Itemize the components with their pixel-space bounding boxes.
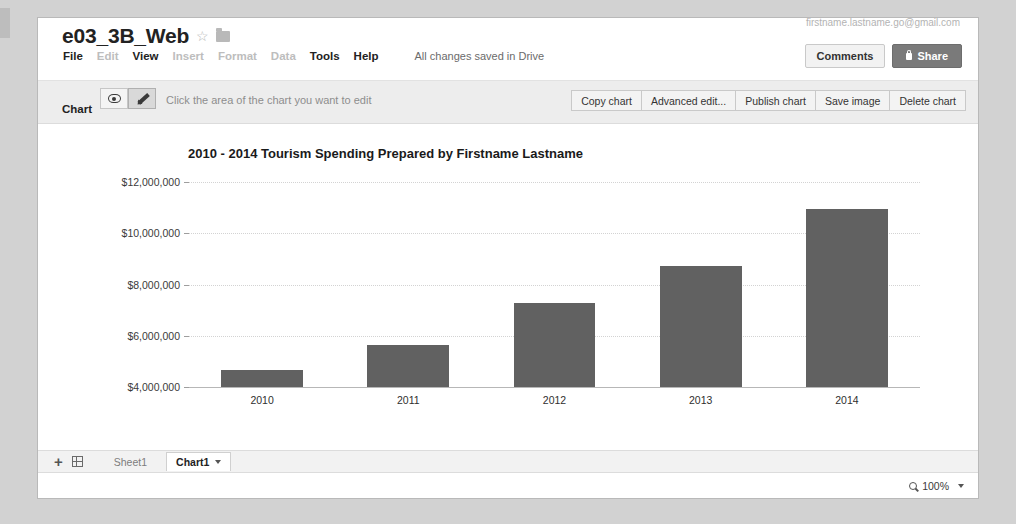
magnifier-icon [909, 482, 917, 490]
chevron-down-icon[interactable] [215, 460, 221, 464]
spreadsheet-window: firstname.lastname.go@gmail.com e03_3B_W… [38, 18, 978, 498]
sheet-tab-chart1[interactable]: Chart1 [166, 452, 231, 471]
chart-bar[interactable] [514, 303, 596, 387]
zoom-level-label: 100% [922, 480, 949, 492]
chart-editor-toolbar: Chart Click the area of the chart you wa… [38, 81, 978, 124]
x-axis-tick-label: 2011 [397, 394, 420, 406]
menu-bar: File Edit View Insert Format Data Tools … [63, 50, 544, 62]
document-title-row: e03_3B_Web ☆ [62, 24, 230, 48]
view-mode-button[interactable] [100, 88, 128, 109]
y-axis-tick [184, 336, 189, 337]
status-bar: 100% [38, 472, 978, 498]
y-axis-tick [184, 233, 189, 234]
menu-item-file[interactable]: File [63, 50, 83, 62]
star-icon[interactable]: ☆ [196, 29, 209, 43]
copy-chart-button[interactable]: Copy chart [571, 90, 642, 111]
menu-item-insert[interactable]: Insert [173, 50, 204, 62]
chart-mode-group [100, 88, 156, 109]
advanced-edit-button[interactable]: Advanced edit... [641, 90, 736, 111]
menu-item-tools[interactable]: Tools [310, 50, 340, 62]
menu-item-format[interactable]: Format [218, 50, 257, 62]
menu-item-edit[interactable]: Edit [97, 50, 119, 62]
add-sheet-icon[interactable]: + [54, 454, 63, 469]
y-axis-tick-label: $6,000,000 [127, 330, 180, 342]
x-axis-tick-label: 2012 [543, 394, 566, 406]
zoom-control[interactable]: 100% [909, 480, 964, 492]
x-axis-tick-label: 2013 [689, 394, 712, 406]
menu-item-view[interactable]: View [133, 50, 159, 62]
chevron-down-icon[interactable] [958, 484, 964, 488]
sheet-tab-sheet1[interactable]: Sheet1 [106, 454, 155, 470]
eye-icon [108, 94, 121, 103]
pencil-icon [136, 92, 149, 105]
y-axis-tick-label: $10,000,000 [122, 227, 180, 239]
sheet-tab-bar: + Sheet1 Chart1 [38, 450, 978, 472]
y-axis-tick [184, 387, 189, 388]
chart-title[interactable]: 2010 - 2014 Tourism Spending Prepared by… [188, 146, 583, 161]
share-button-label: Share [917, 50, 948, 62]
header-actions: Comments Share [805, 44, 962, 68]
y-axis-tick [184, 182, 189, 183]
chart-gridline [189, 182, 920, 183]
chart-bar[interactable] [367, 345, 449, 387]
chart-panel-label: Chart [62, 103, 92, 115]
y-axis-tick-label: $8,000,000 [127, 279, 180, 291]
app-header: firstname.lastname.go@gmail.com e03_3B_W… [38, 18, 978, 81]
edit-mode-button[interactable] [128, 88, 156, 109]
menu-item-data[interactable]: Data [271, 50, 296, 62]
menu-item-help[interactable]: Help [354, 50, 379, 62]
folder-icon[interactable] [216, 31, 230, 42]
chart-plot-area[interactable]: $4,000,000$6,000,000$8,000,000$10,000,00… [189, 182, 920, 388]
y-axis-tick [184, 285, 189, 286]
chart-canvas[interactable]: 2010 - 2014 Tourism Spending Prepared by… [38, 124, 978, 454]
save-status-text: All changes saved in Drive [415, 50, 545, 62]
share-button[interactable]: Share [892, 44, 962, 68]
account-email[interactable]: firstname.lastname.go@gmail.com [806, 17, 960, 28]
x-axis-tick-label: 2014 [835, 394, 858, 406]
comments-button[interactable]: Comments [805, 44, 886, 68]
chart-edit-hint: Click the area of the chart you want to … [166, 94, 371, 106]
page-title[interactable]: e03_3B_Web [62, 24, 189, 48]
delete-chart-button[interactable]: Delete chart [889, 90, 966, 111]
chart-bar[interactable] [806, 209, 888, 387]
chart-container: 2010 - 2014 Tourism Spending Prepared by… [48, 132, 968, 432]
sheet-tab-chart1-label: Chart1 [176, 456, 209, 468]
y-axis-tick-label: $4,000,000 [127, 381, 180, 393]
lock-icon [906, 53, 912, 60]
chart-action-buttons: Copy chart Advanced edit... Publish char… [572, 90, 966, 111]
chart-bar[interactable] [221, 370, 303, 387]
x-axis-tick-label: 2010 [250, 394, 273, 406]
publish-chart-button[interactable]: Publish chart [735, 90, 816, 111]
all-sheets-icon[interactable] [72, 456, 83, 467]
chart-bar[interactable] [660, 266, 742, 387]
y-axis-tick-label: $12,000,000 [122, 176, 180, 188]
save-image-button[interactable]: Save image [815, 90, 890, 111]
